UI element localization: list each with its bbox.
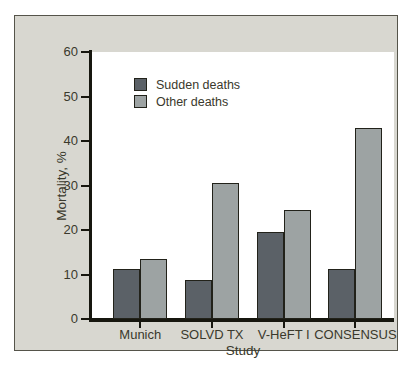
bar-other-deaths-3 — [355, 128, 382, 319]
legend-item: Sudden deaths — [134, 76, 240, 93]
x-tick-label-consensus: CONSENSUS — [300, 327, 410, 342]
mortality-bar-chart-figure: 0102030405060MunichSOLVD TXV-HeFT ICONSE… — [0, 0, 413, 367]
legend-swatch-icon — [134, 78, 147, 91]
legend-swatch-icon — [134, 95, 147, 108]
legend: Sudden deathsOther deaths — [134, 76, 240, 110]
y-tick-label-60: 60 — [48, 45, 78, 59]
y-tick-label-20: 20 — [48, 223, 78, 237]
y-tick-20 — [81, 229, 89, 231]
y-tick-label-40: 40 — [48, 134, 78, 148]
chart-panel: 0102030405060MunichSOLVD TXV-HeFT ICONSE… — [14, 15, 398, 351]
bar-other-deaths-1 — [212, 183, 239, 319]
bar-sudden-deaths-3 — [328, 269, 355, 319]
y-tick-label-0: 0 — [48, 312, 78, 326]
x-axis-title: Study — [92, 343, 394, 358]
legend-item: Other deaths — [134, 93, 240, 110]
bar-other-deaths-0 — [140, 259, 167, 319]
legend-label: Sudden deaths — [156, 78, 240, 92]
y-axis-title: Mortality, % — [54, 151, 69, 221]
y-tick-label-50: 50 — [48, 90, 78, 104]
y-axis-line — [89, 50, 92, 322]
y-tick-0 — [81, 318, 89, 320]
bar-sudden-deaths-0 — [113, 269, 140, 319]
y-tick-10 — [81, 274, 89, 276]
y-tick-30 — [81, 185, 89, 187]
y-tick-60 — [81, 51, 89, 53]
y-tick-label-10: 10 — [48, 268, 78, 282]
y-tick-40 — [81, 140, 89, 142]
bar-sudden-deaths-1 — [185, 280, 212, 319]
bar-sudden-deaths-2 — [257, 232, 284, 319]
bar-other-deaths-2 — [284, 210, 311, 319]
legend-label: Other deaths — [156, 95, 228, 109]
y-tick-50 — [81, 96, 89, 98]
